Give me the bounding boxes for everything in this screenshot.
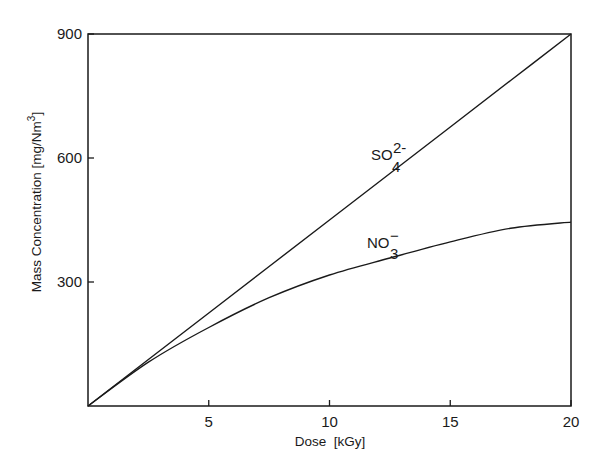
so4-line (88, 34, 571, 406)
chart: 300600900 5101520 Mass Concentration [mg… (0, 0, 603, 475)
y-tick-label: 900 (57, 25, 82, 42)
x-axis-ticks: 5101520 (205, 400, 580, 430)
x-tick-label: 20 (563, 413, 580, 430)
svg-text:Mass Concentration [mg/Nm3]: Mass Concentration [mg/Nm3] (26, 112, 44, 292)
x-axis-title: Dose [kGy] (295, 434, 366, 449)
so4-label-main: SO (371, 146, 393, 163)
x-tick-label: 10 (321, 413, 338, 430)
no3-label-sub: 3 (390, 245, 398, 262)
no3-label-main: NO (367, 234, 390, 251)
y-axis-title-end: ] (29, 112, 44, 116)
no3-line (88, 222, 571, 406)
svg-text:NO: NO (367, 234, 390, 251)
x-tick-label: 5 (205, 413, 213, 430)
series-lines (88, 34, 571, 406)
no3-label: NO − 3 (367, 227, 399, 262)
so4-label: SO 2- 4 (371, 139, 406, 175)
x-tick-label: 15 (442, 413, 459, 430)
y-axis-title-main: Mass Concentration [mg/Nm (29, 121, 44, 292)
x-axis-title-text: Dose [kGy] (295, 434, 366, 449)
y-tick-label: 600 (57, 149, 82, 166)
svg-text:SO: SO (371, 146, 393, 163)
so4-label-sub: 4 (392, 158, 400, 175)
y-tick-label: 300 (57, 273, 82, 290)
no3-label-sup: − (390, 227, 399, 244)
y-axis-title: Mass Concentration [mg/Nm3] (26, 112, 44, 292)
so4-label-sup: 2- (393, 139, 406, 156)
